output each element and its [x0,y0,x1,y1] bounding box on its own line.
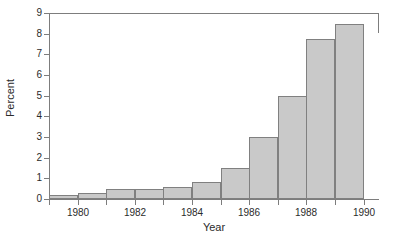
x-tick-1986 [249,200,250,205]
y-tick-3 [44,137,49,138]
bar-1979 [49,195,78,199]
y-tick-1 [44,178,49,179]
y-tick-2 [44,158,49,159]
y-tick-8 [44,34,49,35]
x-tick-label-1986: 1986 [229,207,269,218]
x-tick-1988 [306,200,307,205]
plot-right-frame [378,13,379,33]
y-tick-6 [44,75,49,76]
bar-1985 [221,168,250,199]
bar-1983 [163,187,192,199]
y-tick-5 [44,96,49,97]
x-tick-label-1990: 1990 [344,207,384,218]
y-tick-4 [44,116,49,117]
plot-top-frame [49,13,379,14]
x-tick-label-1982: 1982 [115,207,155,218]
bar-1986 [249,137,278,199]
y-tick-label-8: 8 [12,29,42,39]
x-tick-1987 [278,200,279,205]
y-tick-label-1: 1 [12,173,42,183]
y-tick-label-6: 6 [12,70,42,80]
x-axis-line [49,199,379,200]
bar-1989 [335,24,364,199]
y-tick-7 [44,54,49,55]
y-tick-label-2: 2 [12,153,42,163]
x-tick-1989 [335,200,336,205]
x-tick-label-1980: 1980 [58,207,98,218]
y-tick-label-5: 5 [12,91,42,101]
x-tick-1983 [163,200,164,205]
x-tick-label-1984: 1984 [172,207,212,218]
y-tick-label-3: 3 [12,132,42,142]
x-tick-1990 [364,200,365,205]
bar-1984 [192,182,221,199]
x-tick-1985 [221,200,222,205]
bar-1981 [106,189,135,199]
x-tick-1980 [78,200,79,205]
y-tick-label-7: 7 [12,49,42,59]
x-tick-1981 [106,200,107,205]
bar-1980 [78,193,107,199]
y-axis-title: Percent [4,68,16,128]
bar-1987 [278,96,307,199]
x-tick-1982 [135,200,136,205]
x-tick-label-1988: 1988 [286,207,326,218]
y-tick-label-0: 0 [12,194,42,204]
y-tick-label-4: 4 [12,111,42,121]
x-tick-1984 [192,200,193,205]
y-axis-line [49,13,50,200]
x-axis-title: Year [49,221,379,233]
bar-1982 [135,189,164,199]
chart-figure: 0123456789 198019821984198619881990 Year… [0,0,394,243]
x-tick-1979 [49,200,50,205]
y-tick-label-9: 9 [12,8,42,18]
y-tick-9 [44,13,49,14]
bar-1988 [306,39,335,199]
